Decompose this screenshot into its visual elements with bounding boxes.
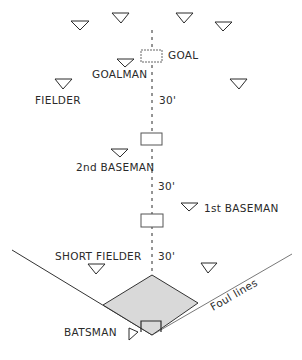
batsman-marker: [129, 328, 138, 340]
distance-label-2: 30': [158, 180, 175, 192]
first-base-box: [141, 214, 163, 227]
short-fielder-label: SHORT FIELDER: [55, 250, 142, 262]
fielder-marker: [55, 79, 72, 89]
right-fielder-marker: [230, 79, 247, 89]
foul-lines-label: Foul lines: [208, 276, 259, 313]
outfielder-marker-2: [112, 13, 129, 23]
distance-label-3: 30': [158, 250, 175, 262]
outfielder-marker-4: [215, 22, 232, 31]
outfielder-marker-1: [71, 21, 89, 30]
fielder-label: FIELDER: [35, 94, 81, 106]
short-fielder-marker: [88, 264, 105, 274]
first-baseman-marker: [181, 203, 198, 211]
goalman-marker: [117, 59, 134, 67]
second-baseman-label: 2nd BASEMAN: [76, 161, 154, 173]
batsman-label: BATSMAN: [64, 326, 117, 338]
first-baseman-label: 1st BASEMAN: [204, 202, 279, 214]
outfielder-marker-3: [176, 13, 193, 23]
goal-label: GOAL: [168, 49, 198, 61]
second-baseman-marker: [111, 149, 128, 157]
goal-box: [141, 50, 162, 62]
second-base-box: [141, 133, 162, 145]
right-short-fielder-marker: [201, 263, 217, 273]
field-diagram: GOAL GOALMAN FIELDER 30' 2nd BASEMAN 30'…: [0, 0, 302, 360]
goalman-label: GOALMAN: [92, 68, 147, 80]
infield-diamond: [103, 275, 198, 335]
distance-label-1: 30': [159, 94, 176, 106]
